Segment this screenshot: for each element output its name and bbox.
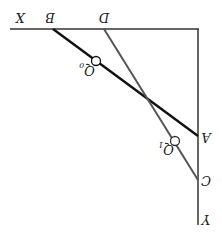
diagram: X B D A C Y Q0 Q1 (0, 0, 222, 240)
label-q1: Q1 (158, 140, 174, 157)
label-a: A (201, 130, 211, 145)
label-x: X (15, 10, 26, 25)
label-d: D (98, 10, 110, 25)
line-ba (53, 29, 198, 136)
label-c: C (201, 173, 211, 188)
label-b: B (45, 10, 56, 25)
line-dc (104, 29, 198, 180)
diagram-canvas: X B D A C Y Q0 Q1 (0, 0, 222, 240)
label-y: Y (200, 212, 210, 227)
label-q0: Q0 (79, 61, 95, 78)
